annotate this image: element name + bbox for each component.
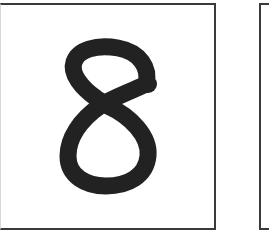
handwritten-eight-glyph bbox=[0, 0, 269, 241]
eight-stroke-end-blob bbox=[139, 75, 157, 93]
eight-crossing-stroke bbox=[68, 84, 148, 186]
